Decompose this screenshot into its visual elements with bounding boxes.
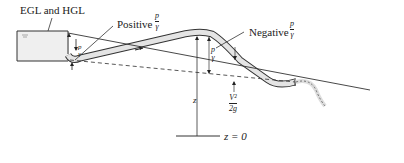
negative-p-over-gamma: p γ bbox=[290, 20, 294, 39]
tank-water bbox=[17, 31, 69, 61]
gamma-symbol: γ bbox=[290, 31, 293, 39]
gamma-symbol: γ bbox=[211, 54, 214, 62]
p-symbol: p bbox=[155, 12, 159, 20]
arrowhead bbox=[232, 81, 236, 85]
p-symbol: p bbox=[290, 20, 294, 28]
pipe-fill bbox=[68, 32, 295, 84]
gamma-symbol: γ bbox=[78, 51, 81, 58]
jet bbox=[296, 81, 325, 106]
crest-p-over-gamma: p γ bbox=[211, 46, 215, 62]
negative-label: Negative bbox=[249, 27, 289, 38]
positive-p-over-gamma: p γ bbox=[155, 12, 159, 31]
siphon-diagram bbox=[0, 0, 404, 163]
tank-p-over-gamma: p γ bbox=[78, 44, 82, 58]
velocity-head: V² 2g bbox=[229, 94, 237, 113]
egl-hgl-label: EGL and HGL bbox=[20, 5, 85, 16]
v2-symbol: V² bbox=[229, 94, 236, 102]
datum-label: z = 0 bbox=[224, 131, 247, 142]
gamma-symbol: γ bbox=[155, 23, 158, 31]
positive-label: Positive bbox=[117, 19, 152, 30]
arrowhead bbox=[195, 36, 199, 40]
arrowhead bbox=[207, 37, 211, 41]
leader-egl bbox=[48, 18, 52, 31]
z-label: z bbox=[193, 96, 197, 105]
two-g-symbol: 2g bbox=[229, 105, 237, 113]
